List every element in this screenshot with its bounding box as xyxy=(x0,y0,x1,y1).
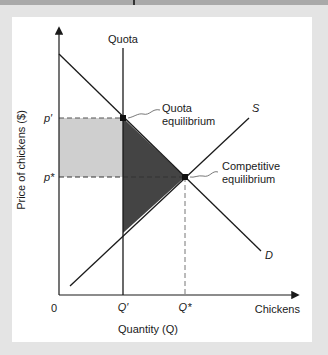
x-end-label: Chickens xyxy=(255,303,301,315)
p-prime-label: p′ xyxy=(43,112,53,124)
competitive-equilibrium-leader xyxy=(190,172,218,178)
y-axis-title: Price of chickens ($) xyxy=(15,110,27,210)
demand-label: D xyxy=(265,249,273,261)
quota-equilibrium-point xyxy=(120,115,126,121)
origin-label: 0 xyxy=(51,302,57,314)
producer-transfer-area xyxy=(59,118,123,177)
quota-equilibrium-label-1: Quota xyxy=(162,102,193,114)
quota-label: Quota xyxy=(108,33,139,45)
quota-equilibrium-label-2: equilibrium xyxy=(162,115,215,127)
competitive-equilibrium-point xyxy=(182,174,188,180)
supply-label: S xyxy=(252,102,260,114)
deadweight-loss-area xyxy=(123,118,185,233)
quota-equilibrium-leader xyxy=(128,110,160,118)
q-star-label: Q* xyxy=(179,301,193,313)
quota-diagram: Quota Quota equilibrium Competitive equi… xyxy=(0,0,328,355)
q-prime-label: Q′ xyxy=(118,301,130,313)
competitive-equilibrium-label-1: Competitive xyxy=(222,160,280,172)
competitive-equilibrium-label-2: equilibrium xyxy=(222,173,275,185)
x-axis-title: Quantity (Q) xyxy=(118,323,178,335)
p-star-label: p* xyxy=(43,171,55,183)
